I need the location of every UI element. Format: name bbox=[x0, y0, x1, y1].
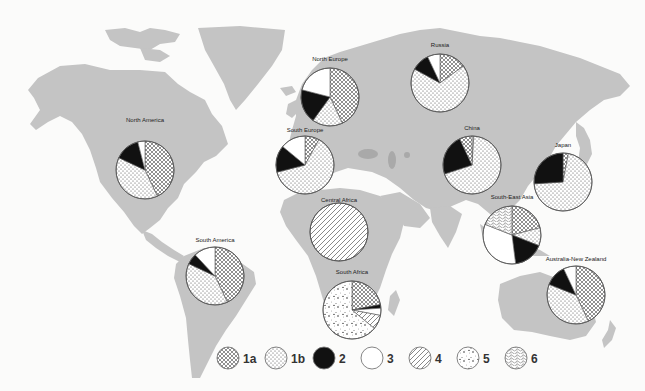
pie-label: China bbox=[464, 125, 480, 131]
legend-swatch-crosshatch-icon bbox=[217, 347, 239, 369]
legend-label: 6 bbox=[531, 352, 538, 366]
legend-item-5: 5 bbox=[457, 347, 490, 369]
pie-label: Japan bbox=[555, 142, 571, 148]
map-canvas: North AmericaNorth EuropeSouth EuropeRus… bbox=[0, 0, 645, 391]
legend-swatch-white-icon bbox=[361, 347, 383, 369]
pie-australia-new-zealand: Australia-New Zealand bbox=[546, 256, 607, 324]
pie-label: South-East Asia bbox=[491, 194, 534, 200]
pie-south-america: South America bbox=[186, 237, 244, 305]
legend-label: 1a bbox=[243, 352, 257, 366]
legend-label: 5 bbox=[483, 352, 490, 366]
legend-item-6: 6 bbox=[505, 347, 538, 369]
legend-item-2: 2 bbox=[313, 347, 346, 369]
pie-label: North America bbox=[126, 117, 165, 123]
legend-swatch-wavy-texture-icon bbox=[505, 347, 527, 369]
legend-item-1a: 1a bbox=[217, 347, 257, 369]
pie-label: South Africa bbox=[336, 269, 369, 275]
legend-swatch-solid-black-icon bbox=[313, 347, 335, 369]
legend-label: 4 bbox=[435, 352, 442, 366]
legend-label: 3 bbox=[387, 352, 394, 366]
legend-swatch-dots-icon bbox=[265, 347, 287, 369]
legend: 1a1b23456 bbox=[217, 347, 538, 369]
legend-swatch-diagonal-lines-icon bbox=[409, 347, 431, 369]
world-map-chart: North AmericaNorth EuropeSouth EuropeRus… bbox=[0, 0, 645, 391]
legend-item-1b: 1b bbox=[265, 347, 305, 369]
legend-item-3: 3 bbox=[361, 347, 394, 369]
pie-label: North Europe bbox=[312, 56, 348, 62]
pie-label: Central Africa bbox=[321, 197, 358, 203]
pie-label: South America bbox=[195, 237, 235, 243]
pie-label: South Europe bbox=[287, 127, 324, 133]
pie-label: Australia-New Zealand bbox=[546, 256, 607, 262]
legend-swatch-speckled-icon bbox=[457, 347, 479, 369]
pie-label: Russia bbox=[431, 42, 450, 48]
legend-label: 2 bbox=[339, 352, 346, 366]
legend-item-4: 4 bbox=[409, 347, 442, 369]
legend-label: 1b bbox=[291, 352, 305, 366]
